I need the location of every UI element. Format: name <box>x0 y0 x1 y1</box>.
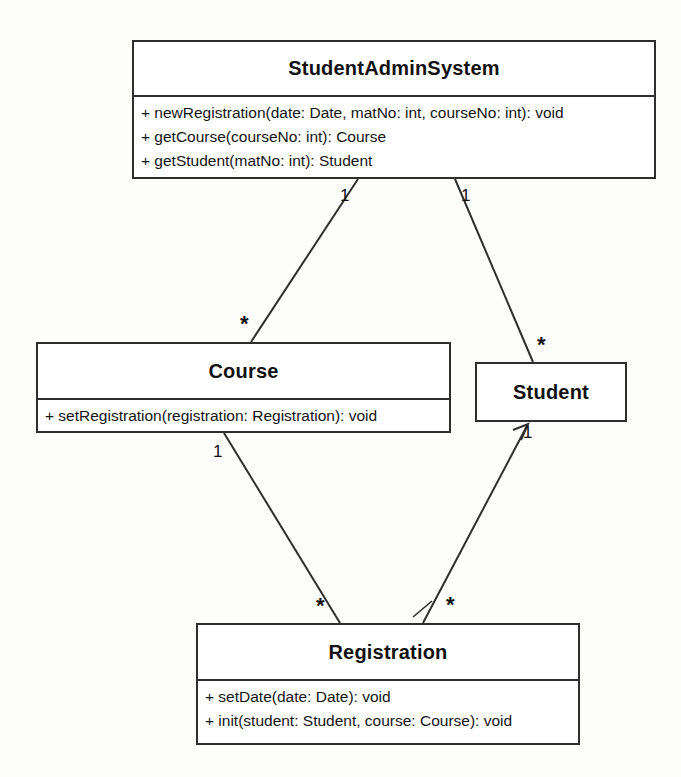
class-name-student: Student <box>477 364 625 420</box>
multiplicity-label-course-registration-target: * <box>316 595 325 617</box>
multiplicity-label-sas-student-source: 1 <box>461 187 470 204</box>
multiplicity-label-course-registration-source: 1 <box>213 443 222 460</box>
class-name-course: Course <box>38 344 449 398</box>
association-line-registration-student <box>423 424 528 623</box>
operation: + newRegistration(date: Date, matNo: int… <box>141 101 654 125</box>
operation: + init(student: Student, course: Course)… <box>205 709 578 733</box>
class-name-studentadminsystem: StudentAdminSystem <box>134 42 654 95</box>
class-box-registration[interactable]: Registration + setDate(date: Date): void… <box>196 623 580 745</box>
operation: + getCourse(courseNo: int): Course <box>141 125 654 149</box>
class-operations-studentadminsystem: + newRegistration(date: Date, matNo: int… <box>134 95 654 177</box>
multiplicity-label-sas-student-target: * <box>537 334 546 356</box>
operation: + getStudent(matNo: int): Student <box>141 149 654 173</box>
multiplicity-label-sas-course-source: 1 <box>340 187 349 204</box>
line-crossing-tick <box>413 601 432 617</box>
class-name-registration: Registration <box>198 625 578 679</box>
association-line-sas-student <box>455 179 533 362</box>
class-box-course[interactable]: Course + setRegistration(registration: R… <box>36 342 451 433</box>
multiplicity-label-registration-student-source: * <box>446 594 455 616</box>
class-box-student[interactable]: Student <box>475 362 627 422</box>
class-operations-course: + setRegistration(registration: Registra… <box>38 398 449 431</box>
class-box-studentadminsystem[interactable]: StudentAdminSystem + newRegistration(dat… <box>132 40 656 179</box>
class-operations-registration: + setDate(date: Date): void + init(stude… <box>198 679 578 737</box>
operation: + setRegistration(registration: Registra… <box>45 404 449 428</box>
uml-class-diagram: StudentAdminSystem + newRegistration(dat… <box>0 0 681 777</box>
operation: + setDate(date: Date): void <box>205 685 578 709</box>
multiplicity-label-sas-course-target: * <box>240 313 249 335</box>
multiplicity-label-registration-student-target: 1 <box>523 424 532 441</box>
